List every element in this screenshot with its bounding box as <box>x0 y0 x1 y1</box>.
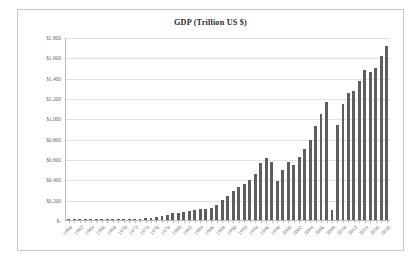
x-tick-mark <box>261 221 262 223</box>
bar[interactable] <box>385 46 388 220</box>
bar[interactable] <box>117 219 120 220</box>
y-tick-label: $0.600 <box>46 157 61 163</box>
bar[interactable] <box>248 180 251 220</box>
bar[interactable] <box>155 217 158 220</box>
bar[interactable] <box>78 219 81 220</box>
bar[interactable] <box>309 140 312 220</box>
bar[interactable] <box>133 219 136 220</box>
bar[interactable] <box>95 219 98 220</box>
y-tick-label: $1.000 <box>46 116 61 122</box>
bar[interactable] <box>232 191 235 220</box>
bar[interactable] <box>374 68 377 220</box>
bar[interactable] <box>73 219 76 220</box>
bar[interactable] <box>199 209 202 220</box>
bar[interactable] <box>84 219 87 220</box>
bar[interactable] <box>320 114 323 220</box>
bar[interactable] <box>358 81 361 220</box>
bar[interactable] <box>287 162 290 220</box>
x-tick-mark <box>365 221 366 223</box>
y-tick-label: $1.200 <box>46 96 61 102</box>
bar[interactable] <box>111 219 114 220</box>
bar[interactable] <box>177 213 180 220</box>
bar[interactable] <box>188 211 191 220</box>
y-tick-label: $1.600 <box>46 55 61 61</box>
bar[interactable] <box>67 219 70 220</box>
bar[interactable] <box>352 91 355 220</box>
bar[interactable] <box>226 196 229 220</box>
bar[interactable] <box>243 184 246 220</box>
bar[interactable] <box>171 213 174 220</box>
bar[interactable] <box>303 149 306 220</box>
bar[interactable] <box>347 93 350 220</box>
y-tick-label: $0.200 <box>46 198 61 204</box>
bar[interactable] <box>276 181 279 220</box>
bar[interactable] <box>144 218 147 220</box>
bar[interactable] <box>292 165 295 220</box>
bar[interactable] <box>325 102 328 221</box>
bar[interactable] <box>281 170 284 220</box>
bar[interactable] <box>182 212 185 220</box>
bar-slot <box>384 38 389 220</box>
x-tick-mark <box>173 221 174 223</box>
x-tick-slot: 2018 <box>384 221 389 262</box>
x-tick-mark <box>266 221 267 223</box>
bar[interactable] <box>128 219 131 220</box>
bar[interactable] <box>106 219 109 220</box>
bar[interactable] <box>270 162 273 220</box>
bar[interactable] <box>139 219 142 220</box>
bar[interactable] <box>100 219 103 220</box>
bar[interactable] <box>259 163 262 220</box>
x-axis-tick-labels: 1960196219641966196819701972197419761978… <box>66 221 390 262</box>
y-tick-label: $0.400 <box>46 177 61 183</box>
chart-title: GDP (Trillion US $) <box>18 18 403 27</box>
bar[interactable] <box>204 209 207 220</box>
bar[interactable] <box>314 126 317 220</box>
y-tick-label: $- <box>57 218 62 224</box>
x-tick-mark <box>184 221 185 223</box>
x-tick-mark <box>233 221 234 223</box>
bar[interactable] <box>166 215 169 220</box>
x-tick-mark <box>255 221 256 223</box>
bar[interactable] <box>363 70 366 220</box>
bar[interactable] <box>215 205 218 220</box>
x-tick-mark <box>376 221 377 223</box>
bar[interactable] <box>237 187 240 220</box>
bar[interactable] <box>150 218 153 220</box>
x-tick-mark <box>370 221 371 223</box>
x-tick-mark <box>327 221 328 223</box>
x-tick-mark <box>107 221 108 223</box>
plot-area: $1.800$1.600$1.400$1.200$1.000$0.800$0.6… <box>65 38 390 221</box>
x-tick-mark <box>359 221 360 223</box>
x-tick-mark <box>195 221 196 223</box>
bar[interactable] <box>331 210 334 220</box>
x-tick-mark <box>129 221 130 223</box>
x-tick-mark <box>140 221 141 223</box>
x-tick-mark <box>239 221 240 223</box>
bar[interactable] <box>342 104 345 220</box>
bar[interactable] <box>298 157 301 220</box>
bar[interactable] <box>161 216 164 220</box>
chart-card: GDP (Trillion US $) $1.800$1.600$1.400$1… <box>17 9 404 251</box>
x-tick-mark <box>162 221 163 223</box>
bar[interactable] <box>210 208 213 220</box>
bar-series <box>66 38 390 220</box>
y-tick-label: $1.800 <box>46 35 61 41</box>
bar[interactable] <box>254 174 257 220</box>
bar[interactable] <box>265 158 268 220</box>
bar[interactable] <box>336 125 339 220</box>
x-tick-mark <box>211 221 212 223</box>
x-tick-mark <box>217 221 218 223</box>
x-tick-mark <box>167 221 168 223</box>
x-tick-mark <box>299 221 300 223</box>
bar[interactable] <box>380 56 383 220</box>
x-tick-mark <box>277 221 278 223</box>
x-tick-mark <box>272 221 273 223</box>
y-tick-label: $1.400 <box>46 76 61 82</box>
bar[interactable] <box>122 219 125 220</box>
x-tick-mark <box>354 221 355 223</box>
bar[interactable] <box>369 72 372 220</box>
bar[interactable] <box>221 200 224 220</box>
bar[interactable] <box>89 219 92 220</box>
x-tick-mark <box>200 221 201 223</box>
bar[interactable] <box>193 210 196 220</box>
